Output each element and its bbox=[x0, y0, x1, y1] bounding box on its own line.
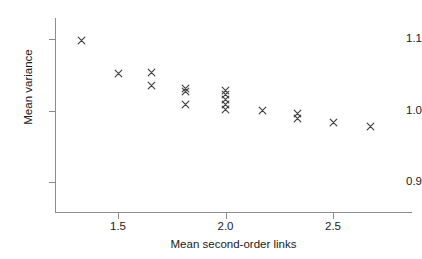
x-tick-2.5 bbox=[333, 212, 334, 219]
data-point bbox=[77, 36, 86, 45]
data-point bbox=[181, 100, 190, 109]
y-tick-0.9 bbox=[49, 182, 56, 183]
x-axis-title: Mean second-order links bbox=[55, 238, 412, 250]
x-tick-label-1.5: 1.5 bbox=[98, 221, 138, 233]
x-tick-2.0 bbox=[226, 212, 227, 219]
data-point bbox=[258, 106, 267, 115]
y-tick-label-1.1: 1.1 bbox=[378, 33, 422, 45]
data-point bbox=[366, 122, 375, 131]
data-point bbox=[114, 69, 123, 78]
y-axis-line bbox=[55, 18, 56, 213]
data-point bbox=[147, 81, 156, 90]
x-tick-label-2.5: 2.5 bbox=[313, 221, 353, 233]
scatter-plot-figure: 0.91.01.1 1.52.02.5 Mean variance Mean s… bbox=[0, 0, 422, 259]
x-axis-line bbox=[55, 212, 412, 213]
data-point bbox=[181, 87, 190, 96]
x-tick-label-2.0: 2.0 bbox=[206, 221, 246, 233]
y-tick-1.1 bbox=[49, 39, 56, 40]
data-point bbox=[293, 114, 302, 123]
y-axis-title: Mean variance bbox=[22, 7, 34, 167]
plot-area: 0.91.01.1 1.52.02.5 Mean variance Mean s… bbox=[0, 0, 422, 259]
data-point bbox=[221, 105, 230, 114]
x-tick-1.5 bbox=[118, 212, 119, 219]
y-tick-label-1.0: 1.0 bbox=[378, 105, 422, 117]
y-tick-1.0 bbox=[49, 111, 56, 112]
data-point bbox=[329, 118, 338, 127]
data-point bbox=[147, 68, 156, 77]
y-tick-label-0.9: 0.9 bbox=[378, 176, 422, 188]
